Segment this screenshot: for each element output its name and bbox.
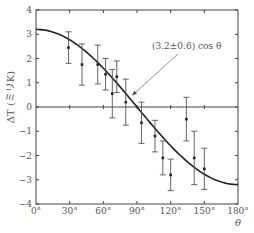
chart: (3.2±0.6) cos θ 0°30°60°90°120°150°180°4…	[0, 0, 254, 233]
y-tick-label: −3	[19, 175, 33, 185]
point-marker	[81, 63, 84, 66]
point-marker	[203, 168, 206, 171]
annotation-text: (3.2±0.6) cos θ	[152, 41, 221, 51]
x-tick-label: 30°	[62, 206, 78, 216]
y-axis-title: ΔT (ミリK)	[5, 71, 16, 123]
point-marker	[116, 75, 119, 78]
point-marker	[111, 92, 114, 95]
data-point	[191, 131, 197, 184]
y-tick-label: −1	[19, 126, 32, 136]
data-point	[103, 59, 109, 91]
x-tick-label: 60°	[95, 206, 111, 216]
x-axis-title: θ	[235, 217, 241, 228]
x-tick-label: 0°	[31, 206, 41, 216]
data-point	[160, 141, 166, 175]
y-tick-label: 4	[26, 5, 32, 15]
data-point	[114, 61, 120, 93]
x-tick-label: 180°	[227, 206, 249, 216]
point-marker	[162, 157, 165, 160]
point-marker	[140, 121, 143, 124]
x-tick-label: 150°	[193, 206, 215, 216]
y-tick-label: 2	[26, 54, 32, 64]
fit-annotation: (3.2±0.6) cos θ	[132, 41, 221, 95]
data-points	[66, 32, 208, 191]
x-tick-label: 90°	[129, 206, 145, 216]
data-point	[168, 159, 174, 191]
data-point	[138, 102, 144, 143]
data-point	[66, 32, 72, 64]
point-marker	[67, 46, 70, 49]
point-marker	[185, 118, 188, 121]
point-marker	[169, 174, 172, 177]
point-marker	[104, 73, 107, 76]
annotation-arrow-line	[132, 54, 178, 95]
y-tick-label: 1	[26, 78, 32, 88]
y-tick-label: 0	[26, 102, 32, 112]
data-point	[123, 79, 129, 125]
point-marker	[96, 63, 99, 66]
data-point	[201, 148, 207, 189]
data-point	[183, 97, 189, 141]
point-marker	[124, 101, 127, 104]
y-tick-label: −2	[19, 151, 32, 161]
x-tick-label: 120°	[160, 206, 182, 216]
y-tick-label: −4	[19, 199, 33, 209]
axis-labels: 0°30°60°90°120°150°180°43210−1−2−3−4θΔT …	[5, 5, 249, 228]
y-tick-label: 3	[26, 29, 32, 39]
point-marker	[154, 135, 157, 138]
point-marker	[193, 157, 196, 160]
